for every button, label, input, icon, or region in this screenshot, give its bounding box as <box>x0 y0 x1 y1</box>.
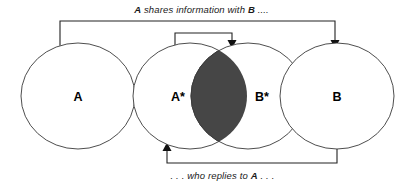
circle-a: A <box>21 43 135 149</box>
bottom-caption-suffix: . . . <box>258 170 275 181</box>
bottom-caption-emphasis-a: A <box>251 170 258 181</box>
venn-diagram-figure: A shares information with B .... A <box>0 0 403 188</box>
circle-b: B <box>280 43 394 149</box>
bottom-caption-prefix: . . . who replies to <box>170 170 250 181</box>
circle-b-star-label: B* <box>255 90 269 104</box>
circle-a-star-label: A* <box>171 90 185 104</box>
bottom-caption: . . . who replies to A . . . <box>0 170 403 181</box>
circle-a-label: A <box>73 90 82 104</box>
venn-pair-astar-bstar: A* B* <box>133 43 305 149</box>
diagram-canvas: A A* B* B <box>0 0 403 188</box>
circle-b-label: B <box>332 90 341 104</box>
